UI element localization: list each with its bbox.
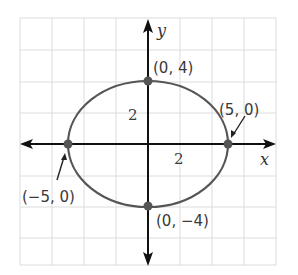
point-label-left: (−5, 0) bbox=[22, 188, 75, 206]
point-label-top: (0, 4) bbox=[153, 59, 193, 77]
point-bottom bbox=[144, 202, 153, 211]
point-left bbox=[64, 140, 73, 149]
y-axis-label: y bbox=[156, 21, 167, 40]
y-axis bbox=[143, 19, 153, 266]
x-axis-label: x bbox=[260, 150, 269, 169]
point-top bbox=[144, 77, 153, 86]
y-tick-label: 2 bbox=[128, 106, 138, 124]
point-label-bottom: (0, −4) bbox=[156, 212, 209, 230]
point-right bbox=[224, 140, 233, 149]
pointer-arrows bbox=[57, 116, 245, 180]
point-label-right: (5, 0) bbox=[219, 101, 259, 119]
x-tick-label: 2 bbox=[174, 150, 184, 168]
ellipse-graph: y x 2 2 (0, 4) (5, 0) (−5, 0) (0, −4) bbox=[0, 0, 298, 275]
